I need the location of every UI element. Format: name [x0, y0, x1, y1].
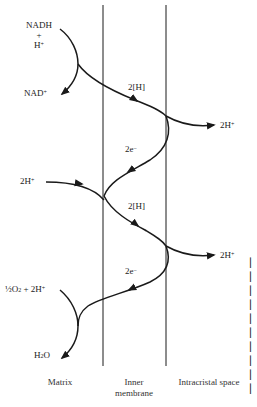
proton-in-arrowhead	[76, 183, 82, 184]
label-proton-out-2: 2H+	[220, 250, 234, 260]
electron-transfer-1-path	[104, 116, 169, 196]
oxygen-to-water-arrow	[60, 290, 78, 358]
label-nad-plus: NAD+	[24, 88, 47, 98]
label-proton-in: 2H+	[20, 176, 34, 186]
proton-in-arrow	[46, 182, 104, 200]
label-water: H2O	[34, 350, 50, 360]
plus-text: +	[22, 30, 56, 40]
cropped-caption-fragment: ▏▏▏▏▏▏▏▏▏▏	[250, 256, 257, 396]
proton-out-2-arrow	[166, 246, 214, 256]
nadh-to-nad-arrow	[60, 29, 78, 94]
label-2h-transfer-1: 2[H]	[128, 82, 145, 92]
label-oxygen-reactants: ½O2 + 2H+	[5, 284, 45, 294]
region-label-intracristal-space: Intracristal space	[168, 377, 250, 388]
region-label-inner-membrane: Inner membrane	[108, 377, 160, 399]
nadh-text: NADH	[22, 20, 56, 30]
label-electron-2: 2e−	[125, 266, 137, 276]
h-plus-text: H+	[22, 40, 56, 50]
region-label-matrix: Matrix	[40, 377, 80, 388]
proton-out-1-arrow	[166, 116, 214, 126]
label-nadh: NADH + H+	[22, 20, 56, 50]
label-electron-1: 2e−	[125, 144, 137, 154]
label-2h-transfer-2: 2[H]	[128, 201, 145, 211]
membrane-text: membrane	[108, 388, 160, 399]
electron-transfer-2-path	[78, 246, 168, 326]
hydrogen-transfer-1-path	[78, 64, 166, 116]
inner-text: Inner	[108, 377, 160, 388]
label-proton-out-1: 2H+	[220, 120, 234, 130]
